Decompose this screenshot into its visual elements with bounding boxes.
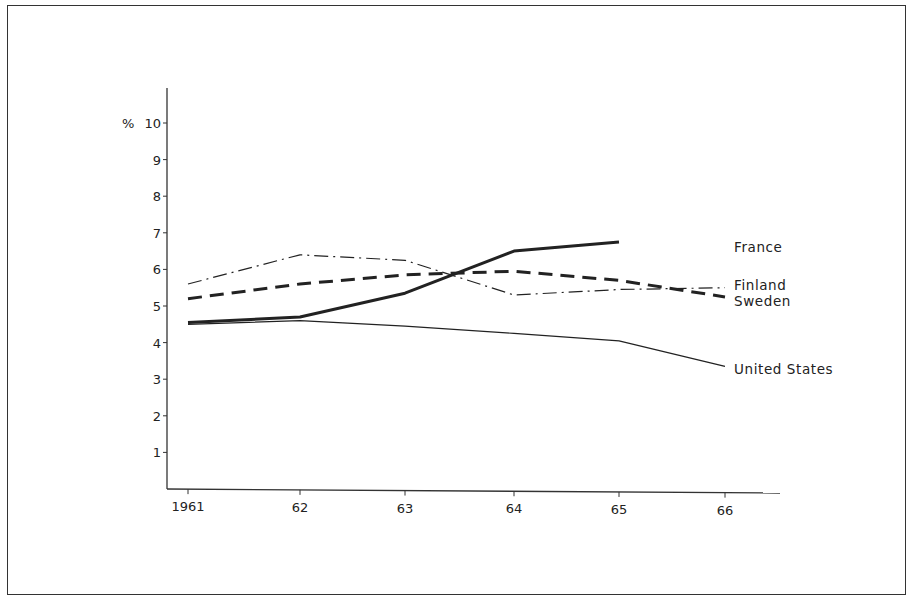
y-tick-label: 10 bbox=[144, 116, 161, 131]
series-lines bbox=[188, 242, 725, 367]
y-tick-label: 4 bbox=[153, 336, 161, 351]
label-sweden: Sweden bbox=[734, 293, 791, 309]
series-labels: France Finland Sweden United States bbox=[734, 239, 833, 377]
y-tick-label: 5 bbox=[153, 299, 161, 314]
x-tick-label: 65 bbox=[611, 502, 628, 517]
series-line-france bbox=[188, 242, 619, 323]
x-tick-label: 64 bbox=[506, 501, 523, 516]
label-france: France bbox=[734, 239, 783, 255]
x-axis bbox=[167, 489, 780, 493]
label-finland: Finland bbox=[734, 277, 786, 293]
label-united-states: United States bbox=[734, 361, 833, 377]
y-tick-label: 8 bbox=[153, 189, 161, 204]
x-tick-label: 62 bbox=[292, 500, 309, 515]
y-tick-label: 1 bbox=[153, 445, 161, 460]
y-unit-label: % bbox=[122, 116, 134, 131]
x-tick-label: 63 bbox=[397, 501, 414, 516]
y-tick-label: 3 bbox=[153, 372, 161, 387]
x-tick-label: 66 bbox=[717, 503, 734, 518]
series-line-united-states bbox=[188, 321, 725, 367]
axes: 12345678910%19616263646566 bbox=[122, 88, 780, 518]
series-line-sweden bbox=[188, 271, 725, 299]
x-tick-label: 1961 bbox=[171, 499, 204, 514]
y-tick-label: 6 bbox=[153, 262, 161, 277]
y-tick-label: 9 bbox=[153, 153, 161, 168]
y-tick-label: 7 bbox=[153, 226, 161, 241]
line-chart: 12345678910%19616263646566 France Finlan… bbox=[0, 0, 909, 604]
y-tick-label: 2 bbox=[153, 409, 161, 424]
